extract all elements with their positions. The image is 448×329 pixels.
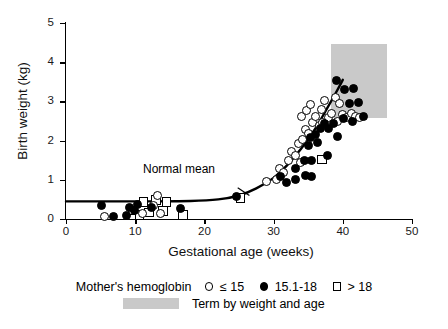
- data-point-filled-circle: [359, 112, 368, 121]
- data-point-filled-circle: [291, 175, 300, 184]
- legend-filled-circle-icon: [260, 282, 269, 291]
- data-point-filled-circle: [340, 85, 349, 94]
- x-tick-label: 40: [328, 226, 358, 238]
- x-tick-label: 10: [120, 226, 150, 238]
- x-tick-label: 30: [259, 226, 289, 238]
- data-point-open-circle: [335, 99, 344, 108]
- y-tick: [60, 101, 65, 102]
- x-tick-label: 0: [51, 226, 81, 238]
- data-point-filled-circle: [313, 138, 322, 147]
- legend-label-term: Term by weight and age: [192, 296, 325, 310]
- legend-label-gt18: > 18: [348, 280, 373, 294]
- chart-figure: Birth weight (kg) Gestational age (weeks…: [0, 0, 448, 329]
- x-tick: [274, 219, 275, 224]
- y-tick-label: 4: [30, 56, 54, 68]
- legend-row-hemoglobin: Mother's hemoglobin ≤ 15 15.1-18 > 18: [0, 278, 448, 295]
- chart-legend: Mother's hemoglobin ≤ 15 15.1-18 > 18 Te…: [0, 278, 448, 311]
- data-point-filled-circle: [176, 204, 185, 213]
- data-point-open-square: [162, 197, 172, 207]
- data-point-open-circle: [317, 105, 326, 114]
- y-tick-label: 5: [30, 17, 54, 29]
- data-point-filled-circle: [291, 164, 300, 173]
- y-tick: [60, 180, 65, 181]
- x-tick: [343, 219, 344, 224]
- y-tick: [60, 219, 65, 220]
- data-point-filled-circle: [329, 119, 338, 128]
- data-point-filled-circle: [349, 84, 358, 93]
- y-tick-label: 0: [30, 213, 54, 225]
- x-axis-title: Gestational age (weeks): [86, 245, 396, 259]
- x-tick: [66, 219, 67, 224]
- data-point-filled-circle: [304, 141, 313, 150]
- y-axis-title: Birth weight (kg): [16, 26, 30, 196]
- legend-term-swatch: [123, 298, 179, 309]
- x-tick: [204, 219, 205, 224]
- x-tick: [412, 219, 413, 224]
- data-point-open-circle: [153, 191, 162, 200]
- normal-mean-annotation: Normal mean: [143, 163, 215, 175]
- y-tick: [60, 23, 65, 24]
- data-point-filled-circle: [323, 151, 332, 160]
- data-point-filled-circle: [109, 212, 118, 221]
- legend-open-circle-icon: [205, 282, 214, 291]
- legend-label-mid: 15.1-18: [275, 280, 317, 294]
- x-tick-label: 20: [189, 226, 219, 238]
- data-point-filled-circle: [147, 203, 156, 212]
- data-point-filled-circle: [348, 117, 357, 126]
- data-point-filled-circle: [333, 132, 342, 141]
- x-tick-label: 50: [397, 226, 427, 238]
- data-point-open-circle: [156, 209, 165, 218]
- data-point-open-circle: [327, 109, 336, 118]
- y-tick-label: 2: [30, 135, 54, 147]
- legend-open-square-icon: [333, 282, 342, 291]
- y-tick-label: 1: [30, 174, 54, 186]
- data-point-filled-circle: [232, 192, 241, 201]
- y-tick: [60, 141, 65, 142]
- data-point-filled-circle: [332, 76, 341, 85]
- legend-title: Mother's hemoglobin: [76, 280, 192, 294]
- y-tick: [60, 62, 65, 63]
- plot-area: [66, 23, 412, 219]
- y-tick-label: 3: [30, 95, 54, 107]
- legend-label-le15: ≤ 15: [220, 280, 244, 294]
- legend-row-term: Term by weight and age: [0, 295, 448, 312]
